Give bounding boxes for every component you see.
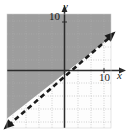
y-axis-label: y [63, 1, 68, 12]
y-axis-tick-label-10: 10 [49, 11, 60, 22]
x-axis-tick-label-10: 10 [99, 72, 110, 83]
inequality-graph-figure: y x 10 10 [0, 0, 128, 132]
x-axis-label: x [117, 70, 122, 81]
coordinate-plane [0, 0, 128, 132]
